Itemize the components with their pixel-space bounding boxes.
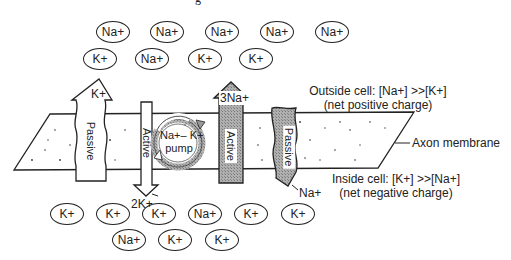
- outside-ion: Na+: [205, 21, 239, 43]
- outside-ion: Na+: [96, 21, 130, 43]
- outside-cell-line2: (net positive charge): [303, 98, 453, 112]
- outside-cell-line1: Outside cell: [Na+] >>[K+]: [303, 84, 453, 98]
- outside-ion: Na+: [315, 21, 349, 43]
- inside-ion: Na+: [112, 229, 146, 251]
- outside-ion: K+: [188, 48, 222, 70]
- pump-label-line2: pump: [160, 142, 198, 155]
- outside-cell-label: Outside cell: [Na+] >>[K+] (net positive…: [303, 84, 453, 112]
- outside-ion: K+: [239, 48, 273, 70]
- passive-na-ion-label: Na+: [299, 186, 321, 200]
- active-na-mode-label: Active: [225, 129, 237, 163]
- inside-cell-label: Inside cell: [K+] >>[Na+] (net negative …: [326, 172, 466, 200]
- pump-label: Na+– K+ pump: [160, 129, 198, 155]
- outside-ion: Na+: [150, 21, 184, 43]
- active-na-ion-label: 3Na+: [219, 91, 250, 105]
- passive-na-mode-label: Passive: [283, 126, 295, 169]
- outside-ion: Na+: [135, 48, 169, 70]
- inside-ion: K+: [96, 203, 130, 225]
- axon-membrane-label: Axon membrane: [412, 136, 500, 150]
- passive-k-ion-label: K+: [91, 87, 106, 101]
- active-k-ion-label: 2K+: [131, 197, 153, 211]
- inside-cell-line2: (net negative charge): [326, 186, 466, 200]
- outside-ion: K+: [83, 48, 117, 70]
- inside-ion: K+: [281, 203, 315, 225]
- active-k-mode-label: Active: [141, 128, 153, 158]
- inside-ion: Na+: [188, 203, 222, 225]
- inside-ion: K+: [158, 229, 192, 251]
- passive-k-mode-label: Passive: [85, 122, 97, 161]
- inside-ion: K+: [205, 229, 239, 251]
- axon-membrane: [14, 112, 414, 170]
- outside-ion: Na+: [260, 21, 294, 43]
- inside-ion: K+: [50, 203, 84, 225]
- pump-label-line1: Na+– K+: [160, 129, 198, 142]
- inside-cell-line1: Inside cell: [K+] >>[Na+]: [326, 172, 466, 186]
- caption-fragment: g: [195, 0, 201, 5]
- inside-ion: K+: [234, 203, 268, 225]
